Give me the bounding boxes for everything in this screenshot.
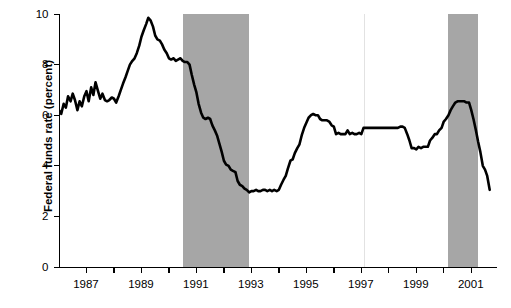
y-tick-label-6: 6 <box>23 109 49 121</box>
x-tick-1997 <box>361 268 362 273</box>
y-tick-label-2: 2 <box>23 210 49 222</box>
y-tick-4 <box>54 165 59 166</box>
y-tick-2 <box>54 216 59 217</box>
x-tick-label-1991: 1991 <box>173 278 219 290</box>
y-tick-0 <box>54 267 59 268</box>
x-tick-label-1999: 1999 <box>393 278 439 290</box>
y-tick-label-0: 0 <box>23 261 49 273</box>
y-tick-label-8: 8 <box>23 58 49 70</box>
x-tick-1988 <box>113 268 114 273</box>
series-path <box>59 17 490 192</box>
x-tick-label-1993: 1993 <box>228 278 274 290</box>
x-tick-1989 <box>141 268 142 273</box>
x-tick-label-1989: 1989 <box>118 278 164 290</box>
x-tick-1993 <box>251 268 252 273</box>
x-tick-1998 <box>388 268 389 273</box>
y-tick-label-10: 10 <box>23 8 49 20</box>
x-tick-1995 <box>306 268 307 273</box>
x-tick-1990 <box>168 268 169 273</box>
x-tick-2001 <box>471 268 472 273</box>
y-tick-6 <box>54 115 59 116</box>
x-tick-1991 <box>196 268 197 273</box>
y-tick-10 <box>54 14 59 15</box>
x-tick-label-1995: 1995 <box>283 278 329 290</box>
line-series-federal-funds-rate <box>59 14 496 267</box>
x-tick-1996 <box>333 268 334 273</box>
x-tick-label-1987: 1987 <box>63 278 109 290</box>
x-tick-1992 <box>223 268 224 273</box>
chart-figure: Federal funds rate (percent) 0246810 198… <box>0 0 511 308</box>
x-tick-2000 <box>443 268 444 273</box>
x-tick-1994 <box>278 268 279 273</box>
y-tick-label-4: 4 <box>23 159 49 171</box>
y-tick-8 <box>54 64 59 65</box>
x-tick-1999 <box>416 268 417 273</box>
x-tick-label-1997: 1997 <box>338 278 384 290</box>
x-tick-label-2001: 2001 <box>448 278 494 290</box>
y-axis-line <box>59 14 60 268</box>
x-tick-1987 <box>86 268 87 273</box>
plot-area <box>59 14 496 267</box>
